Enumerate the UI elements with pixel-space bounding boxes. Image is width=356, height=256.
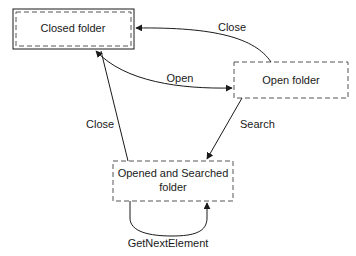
edge-label-open: Open — [167, 72, 194, 84]
edge-label-getnextelement: GetNextElement — [128, 237, 209, 249]
edge-self-loop-searched — [130, 201, 207, 236]
edge-label-close-top: Close — [218, 21, 246, 33]
edge-searched-to-closed — [101, 51, 128, 161]
node-closed-folder: Closed folder — [13, 9, 134, 49]
node-closed-label: Closed folder — [41, 22, 106, 34]
state-diagram: Closed folder Open folder Opened and Sea… — [0, 0, 356, 256]
edge-closed-to-open — [96, 51, 232, 88]
node-searched-label-line2: folder — [159, 181, 187, 193]
edge-label-close-left: Close — [86, 118, 114, 130]
node-open-folder: Open folder — [234, 62, 348, 98]
node-searched-folder: Opened and Searched folder — [113, 161, 233, 201]
edge-label-search: Search — [240, 118, 275, 130]
node-open-label: Open folder — [262, 74, 320, 86]
edge-open-to-closed — [136, 28, 271, 62]
node-searched-label-line1: Opened and Searched — [118, 167, 229, 179]
edge-open-to-searched — [207, 98, 242, 159]
